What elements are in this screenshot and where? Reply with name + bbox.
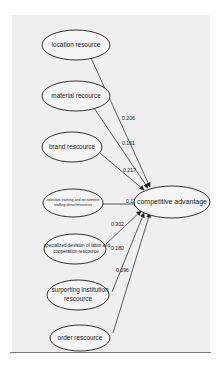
edge-specialized <box>106 211 141 244</box>
node-brand-label: brand rescource <box>49 143 96 150</box>
coef-surporting: 0.180 <box>111 245 124 251</box>
node-specialized: specialized devision of labor and cooper… <box>44 234 111 264</box>
node-selective-label-2: staffing ideas/resources <box>54 203 92 207</box>
node-material-label: material recource <box>51 92 101 99</box>
node-material: material recource <box>42 81 110 111</box>
node-surporting: surporting institution rescource <box>47 280 109 310</box>
coef-material: 0.161 <box>122 140 135 146</box>
node-surporting-label-1: surporting institution <box>51 286 109 294</box>
edge-location <box>91 58 150 187</box>
node-location: location resource <box>42 30 110 60</box>
node-specialized-label-1: specialized devision of labor and <box>44 243 111 248</box>
edge-order <box>113 213 150 333</box>
coef-location: 0.206 <box>122 115 135 121</box>
node-surporting-label-2: rescource <box>64 295 93 302</box>
node-selective: selective training and recruitment staff… <box>43 189 103 217</box>
node-brand: brand rescource <box>42 132 102 162</box>
coef-order: 0.096 <box>116 267 129 273</box>
coef-brand: 0.217 <box>123 167 136 173</box>
node-location-label: location resource <box>52 41 101 48</box>
node-competitive-advantage-label: competitive advantage <box>137 198 207 206</box>
node-competitive-advantage: competitive advantage <box>134 186 210 218</box>
path-diagram: 0.206 0.161 0.217 0.117 0.302 0.180 0.09… <box>0 0 219 371</box>
node-specialized-label-2: cooperation rescource <box>53 249 99 254</box>
coef-specialized: 0.302 <box>111 221 124 227</box>
node-order-label: order rescource <box>58 334 103 341</box>
node-selective-label-1: selective training and recruitment <box>47 198 100 202</box>
node-order: order rescource <box>50 325 110 351</box>
